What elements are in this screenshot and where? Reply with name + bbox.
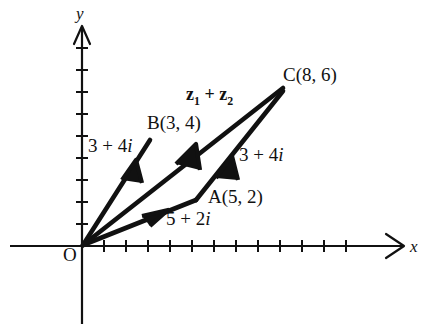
vector-label-ac: 3 + 4i	[239, 145, 284, 164]
diagram-canvas	[0, 0, 431, 324]
sum-label-z2: z	[219, 84, 227, 104]
vector-label-oa-text: 5 + 2	[166, 208, 205, 229]
vector-label-oa: 5 + 2i	[166, 209, 211, 228]
vector-label-ac-text: 3 + 4	[239, 144, 278, 165]
vector-label-ob: 3 + 4i	[88, 136, 133, 155]
point-label-a: A(5, 2)	[208, 187, 263, 206]
vector-label-oc-sum: z1 + z2	[186, 85, 233, 107]
sum-label-z2-subscript: 2	[227, 94, 233, 108]
argand-diagram-figure: y x O C(8, 6) B(3, 4) A(5, 2) 3 + 4i 5 +…	[0, 0, 431, 324]
vector-label-ac-imaginary-unit: i	[278, 144, 283, 165]
x-axis-label: x	[410, 238, 418, 255]
sum-label-plus: +	[200, 84, 219, 104]
point-label-c: C(8, 6)	[283, 65, 337, 84]
vector-label-ob-text: 3 + 4	[88, 135, 127, 156]
point-label-b: B(3, 4)	[147, 113, 201, 132]
vector-label-ob-imaginary-unit: i	[127, 135, 132, 156]
y-axis-label: y	[76, 5, 84, 22]
vector-label-oa-imaginary-unit: i	[205, 208, 210, 229]
sum-label-z1: z	[186, 84, 194, 104]
origin-label: O	[63, 245, 77, 264]
